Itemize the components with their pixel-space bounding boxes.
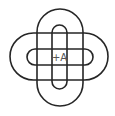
interlocking-stadiums-diagram: +A bbox=[0, 0, 115, 116]
center-label: +A bbox=[52, 52, 67, 63]
